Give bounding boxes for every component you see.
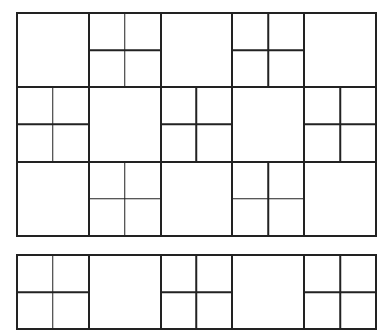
main-cell-solid (17, 13, 89, 87)
main-cell-quad (89, 162, 161, 236)
main-cell-solid (89, 87, 161, 161)
main-cell-solid (161, 13, 233, 87)
strip-cell-quad (17, 255, 89, 329)
strip-cell-solid (232, 255, 304, 329)
strip-cell-quad (304, 255, 376, 329)
strip-cell-quad (161, 255, 233, 329)
main-cell-solid (17, 162, 89, 236)
main-cell-quad (232, 162, 304, 236)
main-cell-solid (232, 87, 304, 161)
main-cell-quad (89, 13, 161, 87)
main-cell-quad (304, 87, 376, 161)
main-cell-quad (161, 87, 233, 161)
main-tiling-grid (16, 12, 377, 237)
main-cell-solid (304, 13, 376, 87)
bottom-tiling-strip (16, 254, 377, 330)
main-cell-solid (161, 162, 233, 236)
main-cell-solid (304, 162, 376, 236)
strip-cell-solid (89, 255, 161, 329)
diagram-canvas (0, 0, 390, 336)
main-cell-quad (17, 87, 89, 161)
main-cell-quad (232, 13, 304, 87)
